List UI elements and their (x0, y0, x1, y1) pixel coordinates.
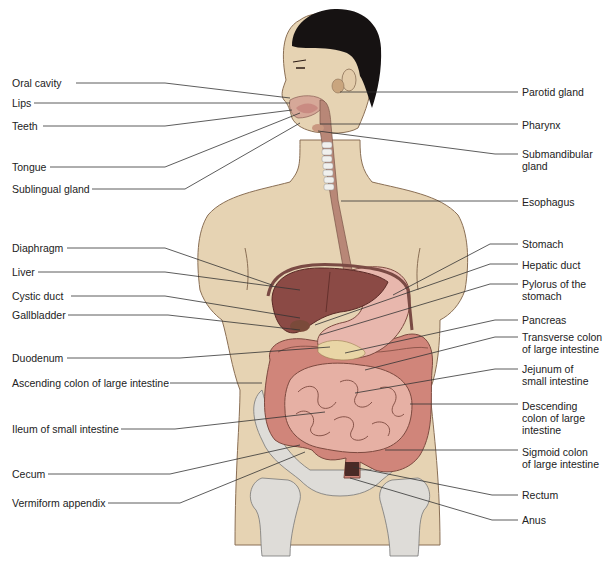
gallbladder (290, 320, 310, 332)
label-transverse-colon: Transverse colon of large intestine (522, 331, 602, 355)
small-intestine (285, 363, 412, 452)
label-sigmoid-colon: Sigmoid colon of large intestine (522, 446, 599, 470)
label-submandibular-gland: Submandibular gland (522, 148, 593, 172)
label-pharynx: Pharynx (522, 119, 561, 131)
label-oral-cavity: Oral cavity (12, 77, 62, 89)
label-gallbladder: Gallbladder (12, 309, 66, 321)
label-parotid-gland: Parotid gland (522, 86, 584, 98)
digestive-system-illustration (0, 0, 606, 566)
label-diaphragm: Diaphragm (12, 242, 63, 254)
label-teeth: Teeth (12, 120, 38, 132)
label-vermiform-appendix: Vermiform appendix (12, 497, 105, 509)
submandibular-gland (312, 124, 324, 132)
label-duodenum: Duodenum (12, 352, 63, 364)
parotid-gland (332, 79, 344, 93)
label-stomach: Stomach (522, 238, 563, 250)
label-jejunum: Jejunum of small intestine (522, 363, 589, 387)
label-liver: Liver (12, 266, 35, 278)
label-descending-colon: Descending colon of large intestine (522, 400, 585, 436)
rectum (345, 462, 359, 476)
label-anus: Anus (522, 514, 546, 526)
label-sublingual-gland: Sublingual gland (12, 183, 90, 195)
label-ileum: Ileum of small intestine (12, 423, 119, 435)
label-cecum: Cecum (12, 468, 45, 480)
label-pancreas: Pancreas (522, 314, 566, 326)
label-tongue: Tongue (12, 161, 46, 173)
label-pylorus: Pylorus of the stomach (522, 278, 586, 302)
label-hepatic-duct: Hepatic duct (522, 259, 580, 271)
label-rectum: Rectum (522, 489, 558, 501)
label-lips: Lips (12, 97, 31, 109)
label-ascending-colon: Ascending colon of large intestine (12, 377, 169, 389)
label-cystic-duct: Cystic duct (12, 290, 63, 302)
label-esophagus: Esophagus (522, 196, 575, 208)
